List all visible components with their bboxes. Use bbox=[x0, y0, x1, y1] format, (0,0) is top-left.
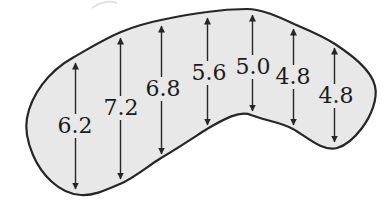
width-label-4: 5.6 bbox=[190, 61, 229, 85]
width-label-6: 4.8 bbox=[274, 65, 313, 89]
width-label-1: 6.2 bbox=[56, 114, 95, 138]
kidney-width-figure: 6.2 7.2 6.8 5.6 5.0 4.8 4.8 bbox=[0, 0, 384, 201]
width-label-3: 6.8 bbox=[144, 77, 183, 101]
width-label-2: 7.2 bbox=[102, 96, 141, 120]
width-label-5: 5.0 bbox=[234, 55, 273, 79]
width-label-7: 4.8 bbox=[317, 84, 356, 108]
scan-artifact-mark bbox=[92, 2, 117, 8]
